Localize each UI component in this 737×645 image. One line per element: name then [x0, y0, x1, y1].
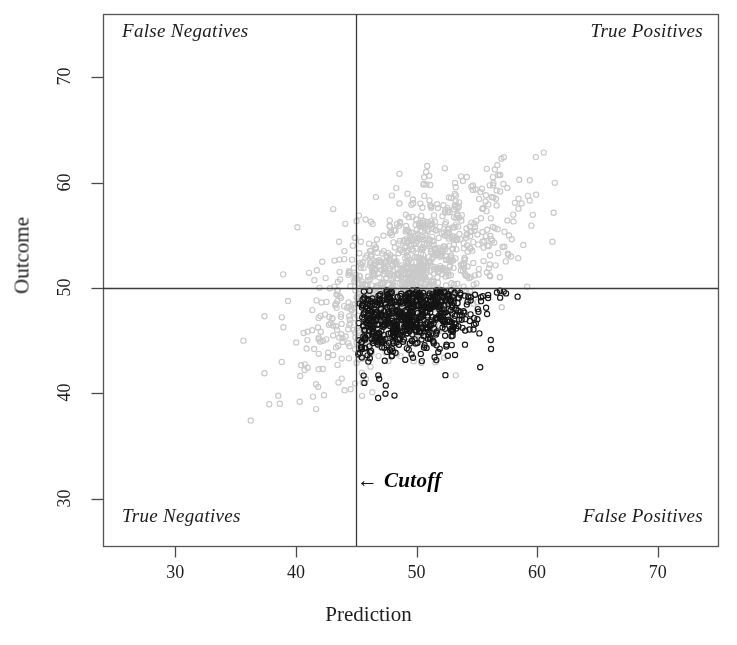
y-tick-label-30: 30 — [54, 478, 75, 518]
scatter-plot-canvas — [0, 0, 737, 645]
y-tick-label-70: 70 — [54, 57, 75, 97]
x-tick-label-30: 30 — [166, 562, 184, 583]
x-tick-label-50: 50 — [408, 562, 426, 583]
x-tick-label-70: 70 — [649, 562, 667, 583]
cutoff-annotation: ← Cutoff — [357, 468, 441, 493]
quadrant-label-false-positives: False Positives — [583, 505, 703, 527]
x-axis-title: Prediction — [0, 602, 737, 627]
y-axis-title: Outcome — [10, 196, 35, 316]
y-tick-label-50: 50 — [54, 267, 75, 307]
quadrant-label-false-negatives: False Negatives — [122, 20, 248, 42]
scatter-plot-figure: False Negatives True Positives True Nega… — [0, 0, 737, 645]
x-tick-label-40: 40 — [287, 562, 305, 583]
quadrant-label-true-positives: True Positives — [591, 20, 703, 42]
cutoff-label: Cutoff — [384, 468, 441, 493]
y-tick-label-60: 60 — [54, 162, 75, 202]
y-tick-label-40: 40 — [54, 373, 75, 413]
left-arrow-icon: ← — [357, 470, 378, 491]
quadrant-label-true-negatives: True Negatives — [122, 505, 241, 527]
x-tick-label-60: 60 — [528, 562, 546, 583]
